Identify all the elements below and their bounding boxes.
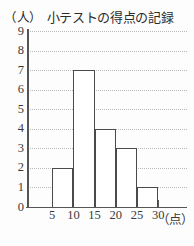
plot-area — [27, 31, 187, 207]
histogram-bar — [73, 70, 94, 207]
gridline — [27, 70, 187, 71]
gridline — [27, 90, 187, 91]
y-tick-label: 9 — [8, 25, 24, 38]
gridline — [27, 51, 187, 52]
chart-header: （人） 小テストの得点の記録 — [0, 6, 194, 26]
y-tick-label: 2 — [8, 161, 24, 174]
chart-title: 小テストの得点の記録 — [47, 7, 174, 26]
y-tick-label: 7 — [8, 64, 24, 77]
y-tick-label: 8 — [8, 44, 24, 57]
y-axis-line — [27, 29, 29, 208]
y-axis-tick-labels: 0123456789 — [6, 31, 24, 207]
y-tick-label: 4 — [8, 122, 24, 135]
histogram-bar — [137, 187, 158, 207]
histogram-bar — [116, 148, 137, 207]
histogram-bar — [95, 129, 116, 207]
y-axis-unit-label: （人） — [4, 7, 42, 26]
y-tick-label: 6 — [8, 83, 24, 96]
y-tick-label: 5 — [8, 103, 24, 116]
y-tick-label: 1 — [8, 181, 24, 194]
x-axis-unit-label: （点） — [157, 209, 193, 228]
histogram-bar — [52, 168, 73, 207]
gridline — [27, 109, 187, 110]
gridline — [27, 31, 187, 32]
y-tick-label: 3 — [8, 142, 24, 155]
histogram-chart: （人） 小テストの得点の記録 0123456789 51015202530 （点… — [0, 0, 194, 246]
